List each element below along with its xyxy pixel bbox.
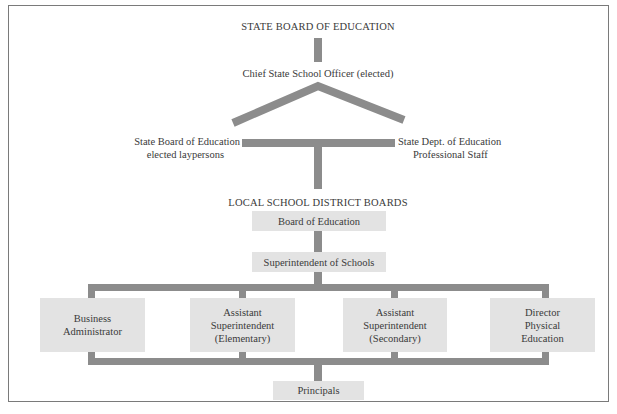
superintendent-box: Superintendent of Schools <box>252 252 386 272</box>
dept-line: Business <box>63 312 122 325</box>
director-physical-education-box: DirectorPhysicalEducation <box>490 298 595 352</box>
connector-to-principals <box>314 365 322 381</box>
drop-elementary <box>239 291 246 298</box>
dept-line: Director <box>521 306 564 319</box>
connector-bottom-collection <box>88 358 549 365</box>
connector-board-to-superintendent <box>314 231 322 252</box>
state-dept-line2: Professional Staff <box>398 148 538 161</box>
dept-line: Superintendent <box>363 319 427 332</box>
business-administrator-box: BusinessAdministrator <box>40 298 145 352</box>
dept-line: Assistant <box>211 306 275 319</box>
dept-line: Administrator <box>63 325 122 338</box>
state-dept-professional-staff: State Dept. of Education Professional St… <box>398 135 538 161</box>
state-board-line2: elected laypersons <box>100 148 240 161</box>
dept-line: Education <box>521 332 564 345</box>
dept-line: Physical <box>521 319 564 332</box>
local-boards-heading: LOCAL SCHOOL DISTRICT BOARDS <box>198 196 438 209</box>
dept-line: Superintendent <box>211 319 275 332</box>
dept-line: (Secondary) <box>363 332 427 345</box>
drop-director <box>542 291 549 298</box>
connector-state-horizontal <box>242 139 395 147</box>
drop-business <box>88 291 95 298</box>
dept-line: Assistant <box>363 306 427 319</box>
board-of-education-box: Board of Education <box>252 211 386 231</box>
state-board-line1: State Board of Education <box>100 135 240 148</box>
state-dept-line1: State Dept. of Education <box>398 135 538 148</box>
drop-secondary <box>391 291 398 298</box>
principals-box: Principals <box>273 381 364 400</box>
connector-top-distribution <box>88 284 549 291</box>
asst-superintendent-elementary-box: AssistantSuperintendent(Elementary) <box>190 298 295 352</box>
asst-superintendent-secondary-box: AssistantSuperintendent(Secondary) <box>343 298 447 352</box>
state-board-laypersons: State Board of Education elected laypers… <box>100 135 240 161</box>
connector-state-to-local <box>314 147 322 189</box>
dept-line: (Elementary) <box>211 332 275 345</box>
